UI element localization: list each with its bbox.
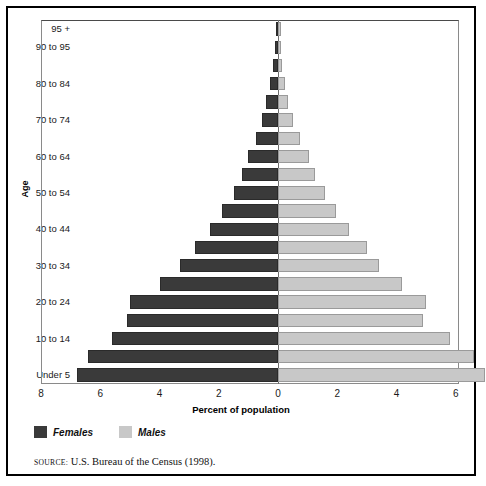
bar-row <box>41 95 459 108</box>
source-text: U.S. Bureau of the Census (1998). <box>71 456 216 467</box>
bar-males <box>278 41 281 54</box>
bar-row <box>41 241 459 254</box>
bar-females <box>234 186 278 199</box>
bar-females <box>77 368 278 381</box>
bar-males <box>278 277 402 290</box>
bar-males <box>278 113 293 126</box>
plot-area <box>41 12 459 384</box>
bar-males <box>278 168 315 181</box>
bar-males <box>278 204 336 217</box>
bar-females <box>256 132 278 145</box>
bar-row <box>41 314 459 327</box>
bar-row <box>41 332 459 345</box>
bar-males <box>278 332 450 345</box>
bar-males <box>278 59 282 72</box>
bar-females <box>130 295 278 308</box>
bar-row <box>41 41 459 54</box>
x-tick-neg6: 6 <box>88 388 112 399</box>
bar-row <box>41 186 459 199</box>
legend-label-males: Males <box>138 427 166 438</box>
legend-swatch-males <box>119 426 132 438</box>
bar-row <box>41 277 459 290</box>
bar-females <box>180 259 278 272</box>
legend: Females Males <box>34 426 166 438</box>
bar-row <box>41 77 459 90</box>
bar-row <box>41 223 459 236</box>
x-tick-neg4: 4 <box>148 388 172 399</box>
bar-row <box>41 204 459 217</box>
bar-females <box>270 77 278 90</box>
bar-row <box>41 22 459 35</box>
bar-row <box>41 150 459 163</box>
bar-males <box>278 95 288 108</box>
bar-females <box>127 314 278 327</box>
x-axis-tick-labels: 864202468 <box>41 388 459 404</box>
bar-males <box>278 314 423 327</box>
bar-row <box>41 59 459 72</box>
bar-females <box>248 150 278 163</box>
source-keyword: SOURCE: <box>34 458 68 467</box>
legend-label-females: Females <box>53 427 93 438</box>
figure-frame: Age Under 510 to 1420 to 2430 to 3440 to… <box>6 6 476 476</box>
bar-males <box>278 350 474 363</box>
bar-females <box>195 241 278 254</box>
bar-males <box>278 295 426 308</box>
bar-females <box>266 95 278 108</box>
bar-row <box>41 259 459 272</box>
plot-border <box>41 20 459 384</box>
bar-males <box>278 77 285 90</box>
bar-females <box>262 113 278 126</box>
bar-males <box>278 368 485 381</box>
bar-row <box>41 295 459 308</box>
legend-item-males: Males <box>119 426 166 438</box>
bar-females <box>112 332 278 345</box>
bar-females <box>160 277 279 290</box>
legend-item-females: Females <box>34 426 93 438</box>
bar-males <box>278 150 309 163</box>
bar-males <box>278 186 325 199</box>
bar-females <box>222 204 278 217</box>
bar-males <box>278 223 349 236</box>
bar-females <box>242 168 278 181</box>
bar-row <box>41 113 459 126</box>
bar-females <box>88 350 278 363</box>
bar-row <box>41 368 459 381</box>
zero-axis-line <box>278 20 279 384</box>
bar-males <box>278 22 281 35</box>
source-note: SOURCE: U.S. Bureau of the Census (1998)… <box>34 456 215 467</box>
x-axis-title: Percent of population <box>8 404 474 415</box>
bar-males <box>278 259 379 272</box>
x-tick-neg2: 2 <box>207 388 231 399</box>
bar-row <box>41 350 459 363</box>
bar-row <box>41 168 459 181</box>
x-tick-neg8: 8 <box>29 388 53 399</box>
x-tick-pos2: 2 <box>325 388 349 399</box>
x-tick-pos6: 6 <box>444 388 468 399</box>
bar-males <box>278 241 367 254</box>
bar-males <box>278 132 300 145</box>
bar-females <box>210 223 278 236</box>
x-tick-pos4: 4 <box>385 388 409 399</box>
legend-swatch-females <box>34 426 47 438</box>
x-tick-0: 0 <box>266 388 290 399</box>
bar-row <box>41 132 459 145</box>
